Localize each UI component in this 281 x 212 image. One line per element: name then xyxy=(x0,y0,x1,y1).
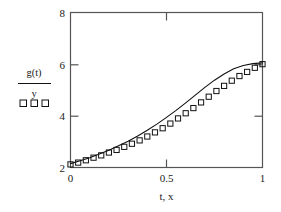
ytick-label-2: 2 xyxy=(60,162,66,174)
ytick-label-8: 8 xyxy=(60,7,66,19)
xtick-label-0: 0 xyxy=(68,172,74,184)
x-axis-title: t, x xyxy=(159,190,174,202)
chart-figure: 8 6 4 2 0 0.5 1 t, x g(t) y xyxy=(0,0,281,212)
chart-svg: 8 6 4 2 0 0.5 1 t, x g(t) y xyxy=(0,0,281,212)
xtick-label-1: 1 xyxy=(260,172,266,184)
ytick-label-4: 4 xyxy=(60,110,66,122)
xtick-label-05: 0.5 xyxy=(160,172,174,184)
legend-label-y: y xyxy=(31,88,37,99)
ytick-label-6: 6 xyxy=(60,59,66,71)
legend-label-gt: g(t) xyxy=(26,67,42,79)
